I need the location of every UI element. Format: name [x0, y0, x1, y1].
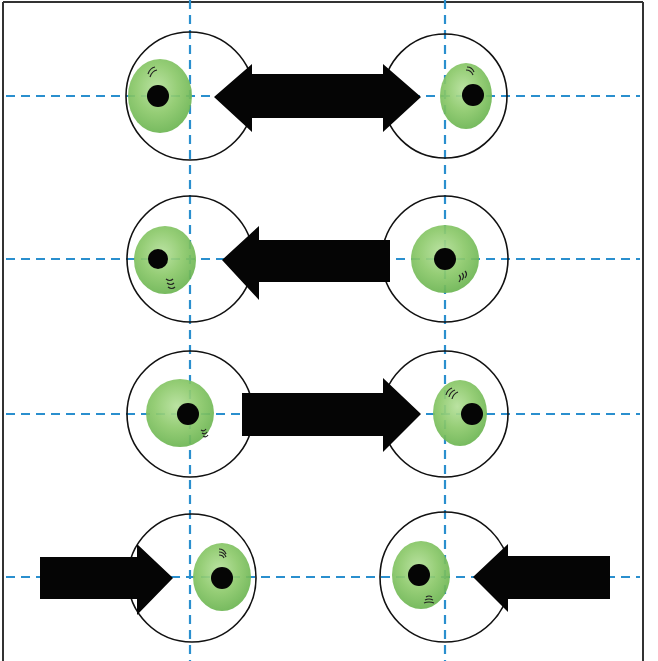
pupil — [434, 248, 456, 270]
arrow-left-converging — [473, 544, 610, 612]
pupil — [148, 249, 168, 269]
pupil — [177, 403, 199, 425]
row-3 — [127, 351, 508, 477]
eye-movement-diagram — [0, 0, 658, 661]
pupil — [211, 567, 233, 589]
row-1 — [126, 32, 507, 160]
arrow-right-converging — [40, 544, 173, 615]
pupil — [461, 403, 483, 425]
pupil — [408, 564, 430, 586]
pupil — [147, 85, 169, 107]
pupil — [462, 84, 484, 106]
row-2 — [127, 196, 508, 322]
arrow-right — [242, 378, 421, 452]
arrow-left — [222, 226, 390, 300]
double-arrow — [214, 64, 421, 132]
